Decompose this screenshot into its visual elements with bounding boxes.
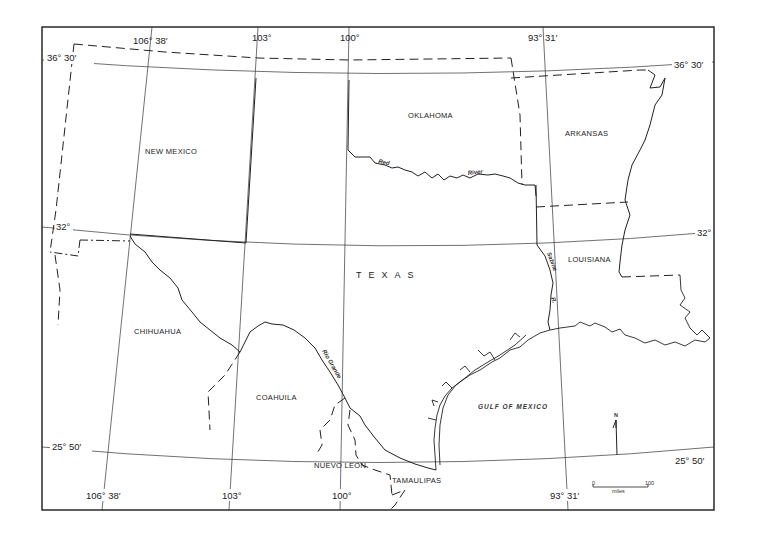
louisiana-north-ms-border [622,275,680,277]
label-coahuila: COAHUILA [256,393,297,402]
coahuila-nuevo-leon-border [316,398,345,455]
label-louisiana: LOUISIANA [568,255,611,264]
map-canvas: NEW MEXICO OKLAHOMA ARKANSAS LOUISIANA T… [0,0,757,541]
red-river [348,150,536,196]
new-mexico-north-border [74,44,511,60]
label-lon-100-top: 100° [340,32,360,43]
label-lat-36-30-right: 36° 30′ [674,59,704,70]
label-lat-25-50-right: 25° 50′ [675,455,705,466]
label-sabine-r: R. [550,296,558,304]
chihuahua-coahuila-border [208,352,240,430]
arkansas-south-border [536,202,628,207]
longitude-100-line [340,27,349,510]
label-lon-103-bottom: 103° [222,490,242,501]
svg-text:miles: miles [612,488,625,494]
label-arkansas: ARKANSAS [565,129,608,138]
svg-text:N: N [614,412,618,418]
texas-nm-border [130,78,256,243]
label-lon-93-31-top: 93° 31′ [528,32,558,43]
new-mexico-southwest-border [50,240,130,256]
label-gulf-of-mexico: GULF OF MEXICO [478,403,548,410]
svg-text:0: 0 [592,480,595,486]
label-lon-103-top: 103° [252,32,272,43]
mississippi-river [619,70,665,277]
longitude-106-38-line [102,27,152,510]
scale-bar: 0 100 miles [592,480,654,494]
label-lon-106-38-top: 106° 38′ [133,35,168,46]
label-nuevo-leon: NUEVO LEON [314,461,366,470]
label-lon-106-38-bottom: 106° 38′ [86,490,121,501]
texas-gulf-coast [434,330,550,470]
label-lat-25-50-left: 25° 50′ [52,441,82,452]
chihuahua-west-border [55,255,60,325]
label-tamaulipas: TAMAULIPAS [392,476,441,485]
longitude-103-line [229,27,258,510]
label-lat-32-right: 32° [697,227,712,238]
label-sabine-river: Sabine [546,251,559,272]
north-arrow-icon: N [613,412,618,455]
latitude-25-50-line [42,447,714,463]
label-lon-100-bottom: 100° [332,490,352,501]
nuevo-leon-tamaulipas-border [348,410,405,510]
label-red-river-1: Red [378,158,391,166]
label-lat-36-30-left: 36° 30′ [47,52,77,63]
label-lon-93-31-bottom: 93° 31′ [550,490,580,501]
map-frame [42,27,714,510]
label-red-river-2: River [467,168,483,176]
svg-text:100: 100 [645,480,654,486]
latitude-32-line [42,227,714,246]
label-chihuahua: CHIHUAHUA [134,327,181,336]
label-texas: TEXAS [356,270,421,280]
label-oklahoma: OKLAHOMA [408,111,453,120]
label-lat-32-left: 32° [56,221,71,232]
label-new-mexico: NEW MEXICO [145,147,197,156]
oklahoma-east-border [511,58,522,185]
louisiana-coast [550,275,710,346]
